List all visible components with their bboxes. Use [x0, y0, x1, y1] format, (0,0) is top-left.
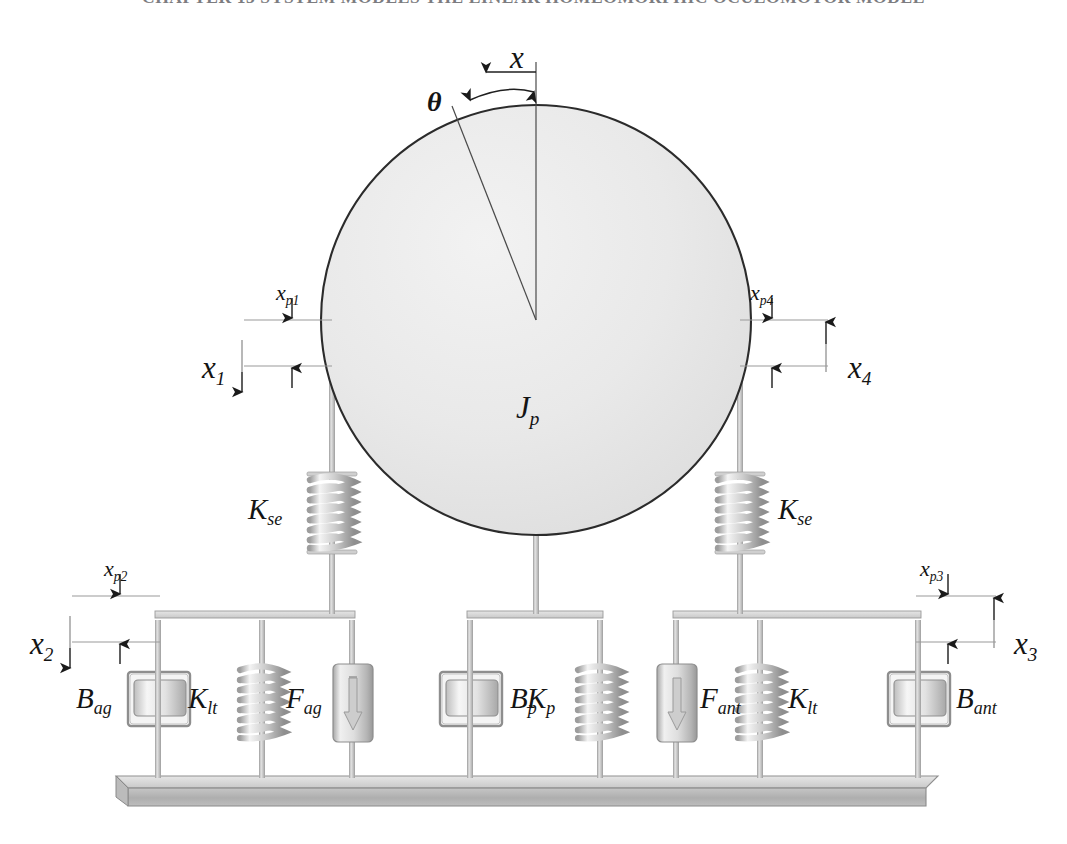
feed-rods — [329, 530, 743, 614]
diagram-canvas: CHAPTER 13 SYSTEM MODELS THE LINEAR HOME… — [0, 0, 1067, 844]
displacement-label-x_3: x3 — [1014, 628, 1037, 659]
force-label-F_ag: Fag — [286, 684, 322, 713]
spring-label-K_se-right: Kse — [778, 495, 812, 524]
spring-K_se-right — [715, 472, 765, 554]
displacement-label-x_p4: xp4 — [750, 282, 773, 304]
spring-K_se-left — [307, 472, 357, 554]
theta-label: θ — [427, 88, 442, 116]
dashpot-label-B_ag: Bag — [76, 684, 112, 713]
displacement-label-x_4: x4 — [848, 352, 871, 383]
spring-label-K_lt-left: Klt — [188, 684, 217, 713]
displacement-label-x_p3: xp3 — [920, 558, 943, 580]
spring-label-K_lt-right: Klt — [788, 684, 817, 713]
displacement-label-x_2: x2 — [30, 628, 53, 659]
force-generator-F_ant — [657, 664, 697, 742]
ground-base — [116, 776, 938, 806]
dashpot-B_p — [440, 668, 502, 730]
force-label-F_ant: Fant — [700, 684, 741, 713]
spring-label-K_se-left: Kse — [248, 495, 282, 524]
dashpot-label-B_ant: Bant — [956, 684, 997, 713]
displacement-label-x_1: x1 — [202, 352, 225, 383]
dashpot-label-B_p: Bp — [510, 684, 537, 713]
x-displacement-label: x — [510, 42, 524, 73]
dashpot-B_ant — [888, 668, 950, 730]
dashpot-B_ag — [128, 668, 190, 730]
displacement-label-x_p2: xp2 — [104, 558, 127, 580]
force-generator-F_ag — [333, 664, 373, 742]
globe-label-J_p: Jp — [516, 392, 539, 423]
displacement-label-x_p1: xp1 — [276, 282, 299, 304]
